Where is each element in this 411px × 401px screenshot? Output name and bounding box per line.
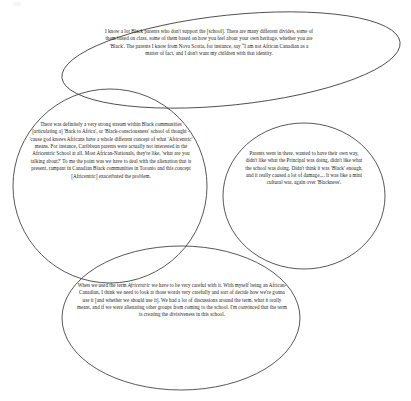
quote-bottom-segment-1: When we used the term (78, 282, 128, 288)
quote-bottom-italic-term: Africentric (128, 282, 150, 288)
top-ellipse-outline (57, 0, 405, 123)
figure-canvas: I know a lot Black parents who don't sup… (0, 0, 411, 401)
left-circle-outline (13, 89, 207, 283)
scan-artifact-speck (13, 2, 21, 6)
quote-text-bottom: When we used the term Africentric we hav… (77, 282, 287, 319)
quote-text-right: Parents went in there, wanted to have th… (243, 150, 365, 187)
quote-text-top: I know a lot Black parents who don't sup… (104, 28, 314, 57)
right-ellipse-outline (223, 123, 385, 269)
ellipse-outlines-group (0, 0, 411, 401)
quote-text-left: There was definitely a very strong strea… (27, 121, 195, 180)
